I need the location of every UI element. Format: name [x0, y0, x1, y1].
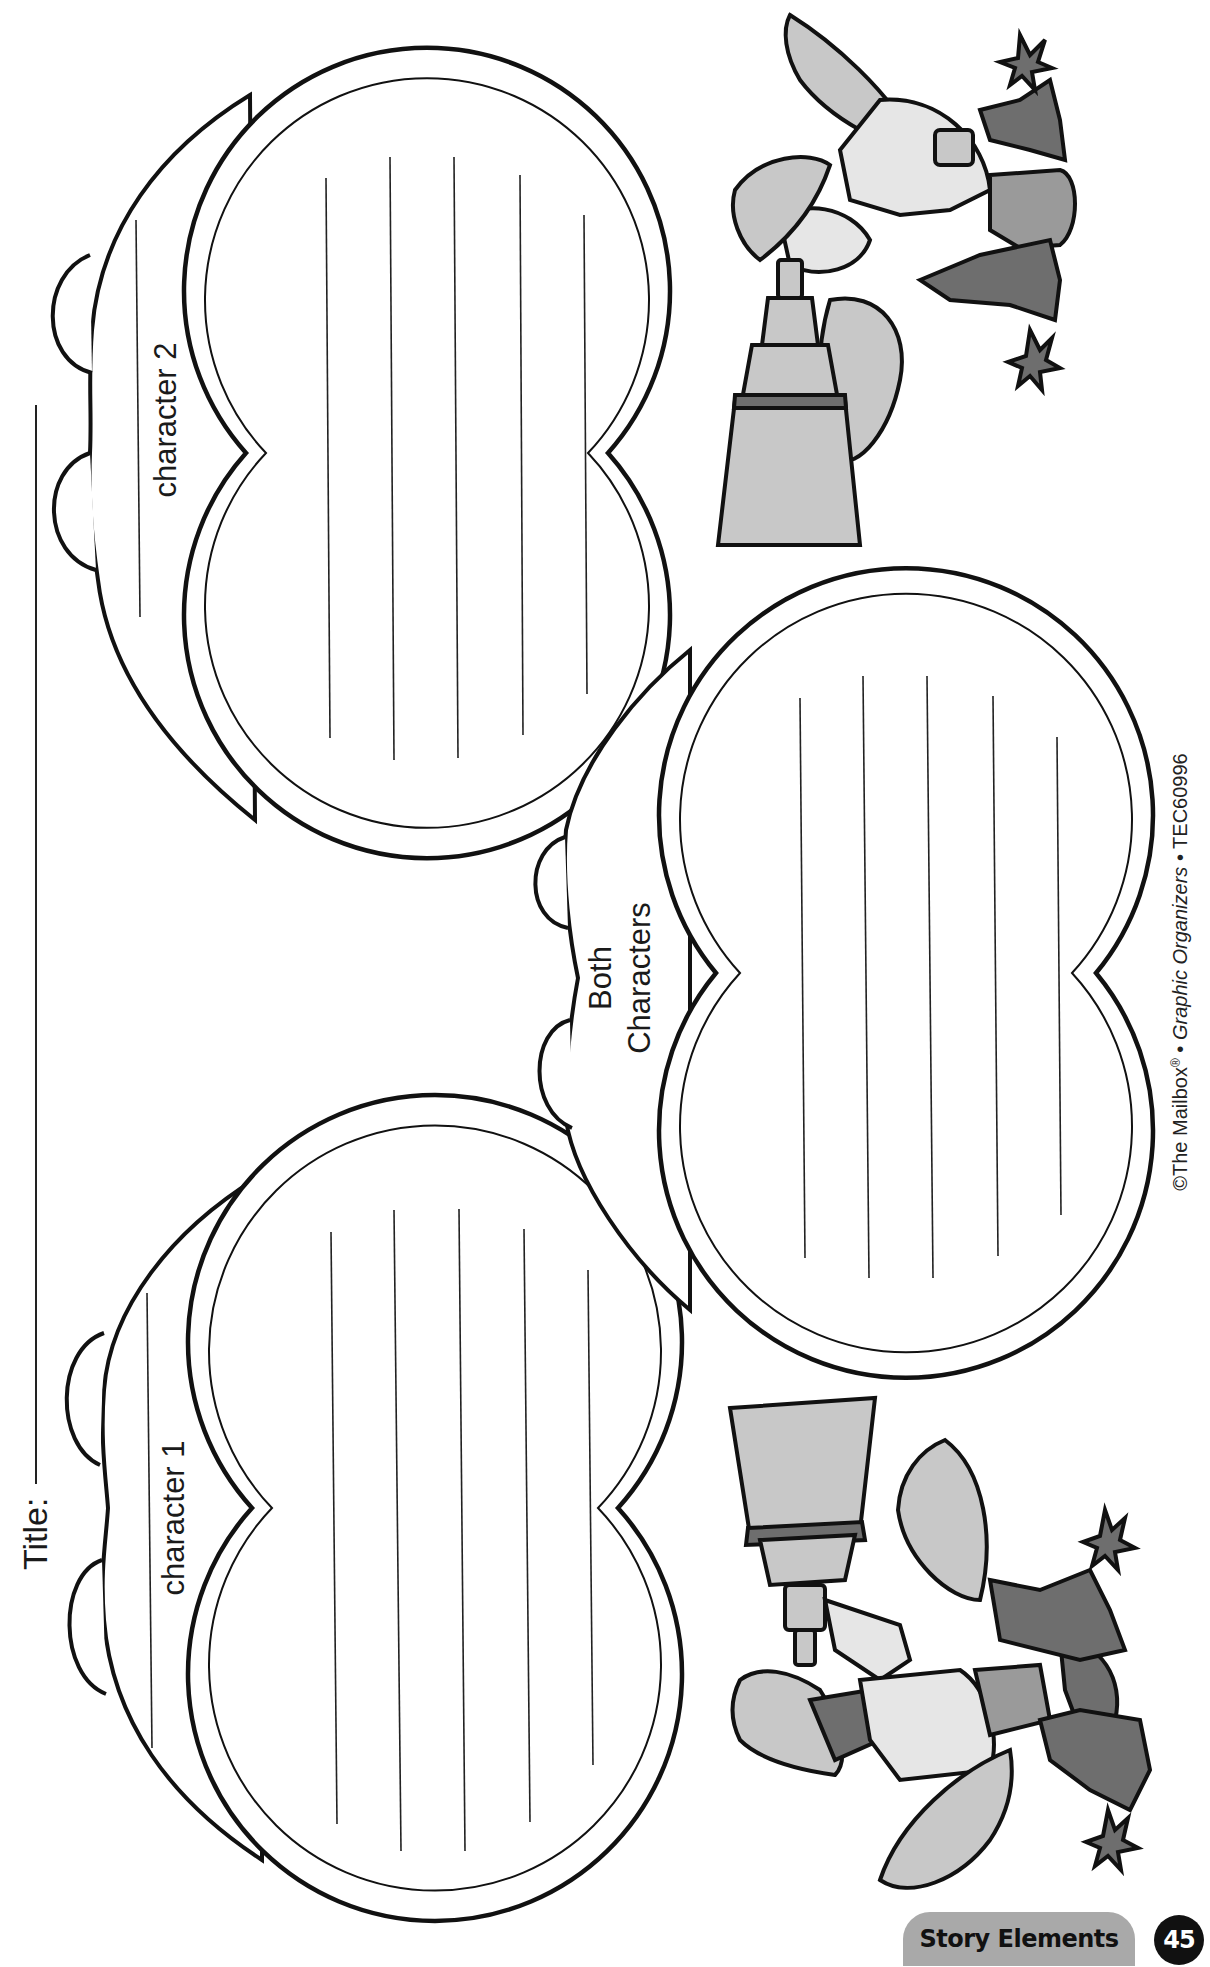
explorer-illustration-top	[718, 15, 1075, 545]
character-2-organizer: character 2	[53, 48, 670, 858]
spark-icon	[1083, 1510, 1135, 1570]
page-number: 45	[1163, 1926, 1194, 1954]
both-label-line1: Both	[583, 946, 618, 1010]
explorer-pocket	[935, 130, 973, 165]
character-2-label: character 2	[148, 342, 183, 497]
copyright-book-title: Graphic Organizers	[1169, 867, 1191, 1040]
telescope-segment	[762, 298, 818, 345]
character-1-lens-inner	[209, 1125, 661, 1890]
telescope-eyepiece	[785, 1585, 825, 1630]
telescope-barrel	[730, 1398, 875, 1535]
both-bump-top	[535, 837, 568, 928]
worksheet-page: Title: character 2 character 1	[0, 0, 1210, 1967]
grass-tuft-icon	[1040, 1710, 1150, 1810]
section-tab-label: Story Elements	[919, 1925, 1118, 1953]
both-lens-inner	[680, 594, 1132, 1353]
grass-tuft-icon	[990, 1570, 1125, 1660]
explorer-boot	[990, 170, 1075, 248]
section-tab: Story Elements	[903, 1912, 1135, 1966]
copyright-registered: ®	[1169, 1058, 1183, 1067]
telescope-segment	[742, 345, 838, 400]
explorer-arm	[825, 1600, 910, 1680]
character-1-bump-top	[67, 1333, 104, 1465]
character-2-bump-top	[53, 255, 92, 373]
both-label-line2: Characters	[622, 902, 657, 1054]
copyright-prefix: ©The Mailbox	[1169, 1067, 1191, 1191]
title-label: Title:	[16, 1498, 54, 1570]
character-2-bump-bottom	[54, 453, 96, 570]
copyright-notice: ©The Mailbox® • Graphic Organizers • TEC…	[1169, 753, 1191, 1190]
character-1-organizer: character 1	[67, 1095, 682, 1921]
telescope-ring	[734, 395, 846, 408]
telescope-segment	[760, 1535, 855, 1585]
copyright-sep: •	[1169, 849, 1191, 867]
spark-icon	[1008, 330, 1060, 390]
character-1-label: character 1	[156, 1440, 191, 1595]
telescope-barrel	[718, 400, 860, 545]
both-bump-bottom	[540, 1020, 573, 1128]
grass-tuft-icon	[920, 240, 1060, 320]
spark-icon	[1086, 1810, 1138, 1870]
telescope-eyepiece-tip	[795, 1630, 815, 1665]
title-field[interactable]: Title:	[16, 405, 54, 1570]
explorer-body	[860, 1670, 994, 1780]
explorer-illustration-bottom	[730, 1398, 1150, 1888]
character-2-lens-inner	[205, 78, 649, 828]
explorer-shorts	[975, 1665, 1050, 1735]
telescope-eyepiece	[778, 260, 802, 298]
jungle-leaf-icon	[898, 1440, 987, 1600]
copyright-code: TEC60996	[1169, 753, 1191, 849]
copyright-sep: •	[1169, 1040, 1191, 1058]
grass-tuft-icon	[980, 80, 1065, 160]
page-number-badge: 45	[1154, 1915, 1204, 1965]
character-1-bump-bottom	[69, 1560, 106, 1694]
